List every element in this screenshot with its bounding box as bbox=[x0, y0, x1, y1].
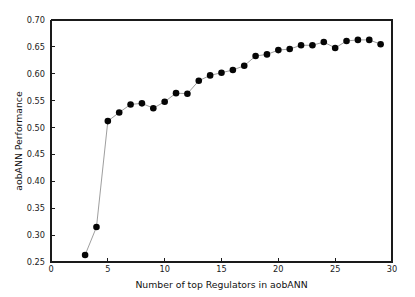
datapoint bbox=[321, 39, 328, 46]
x-axis-title: Number of top Regulators in aobANN bbox=[135, 279, 307, 290]
performance-line-chart: 051015202530 0.250.300.350.400.450.500.5… bbox=[0, 0, 415, 297]
datapoint bbox=[230, 67, 237, 74]
y-tick-label: 0.60 bbox=[27, 69, 45, 79]
datapoint bbox=[309, 42, 316, 49]
datapoint bbox=[275, 47, 282, 54]
datapoint bbox=[298, 42, 305, 49]
x-tick-label: 30 bbox=[387, 264, 397, 274]
y-tick-label: 0.40 bbox=[27, 176, 45, 186]
y-tick-label: 0.30 bbox=[27, 230, 45, 240]
datapoint bbox=[207, 72, 214, 79]
datapoint bbox=[264, 51, 271, 58]
axis-spines bbox=[51, 20, 392, 262]
datapoint bbox=[116, 109, 123, 116]
datapoint bbox=[218, 69, 225, 76]
x-tick-label: 15 bbox=[216, 264, 226, 274]
series-datapoints bbox=[82, 37, 384, 259]
datapoint bbox=[139, 100, 146, 107]
x-axis-tick-labels: 051015202530 bbox=[48, 264, 397, 274]
x-tick-label: 0 bbox=[48, 264, 53, 274]
y-tick-label: 0.65 bbox=[27, 42, 45, 52]
x-tick-label: 5 bbox=[105, 264, 110, 274]
x-tick-label: 25 bbox=[330, 264, 340, 274]
datapoint bbox=[127, 101, 134, 108]
x-tick-label: 20 bbox=[273, 264, 283, 274]
datapoint bbox=[93, 224, 100, 231]
datapoint bbox=[286, 46, 293, 53]
y-tick-label: 0.45 bbox=[27, 149, 45, 159]
datapoint bbox=[173, 90, 180, 97]
datapoint bbox=[332, 45, 339, 52]
datapoint bbox=[184, 90, 191, 97]
datapoint bbox=[377, 41, 384, 48]
datapoint bbox=[366, 37, 373, 44]
chart-figure: 051015202530 0.250.300.350.400.450.500.5… bbox=[0, 0, 415, 297]
datapoint bbox=[105, 118, 112, 125]
y-axis-tick-labels: 0.250.300.350.400.450.500.550.600.650.70 bbox=[27, 15, 45, 267]
datapoint bbox=[161, 98, 168, 105]
y-tick-label: 0.35 bbox=[27, 203, 45, 213]
y-tick-label: 0.25 bbox=[27, 257, 45, 267]
datapoint bbox=[355, 37, 362, 44]
datapoint bbox=[82, 252, 89, 259]
y-axis-title: aobANN Performance bbox=[13, 91, 24, 191]
datapoint bbox=[343, 38, 350, 45]
datapoint bbox=[195, 77, 202, 84]
y-tick-label: 0.50 bbox=[27, 123, 45, 133]
y-tick-label: 0.70 bbox=[27, 15, 45, 25]
datapoint bbox=[252, 53, 259, 60]
datapoint bbox=[241, 62, 248, 69]
y-tick-label: 0.55 bbox=[27, 96, 45, 106]
x-tick-label: 10 bbox=[159, 264, 169, 274]
datapoint bbox=[150, 105, 157, 112]
